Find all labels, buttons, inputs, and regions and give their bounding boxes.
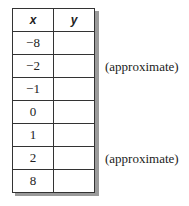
header-y: y [54,9,95,32]
table-row: 1 [13,124,95,147]
table-row: −1 [13,78,95,101]
table-row: −8 [13,32,95,55]
cell-y[interactable] [54,78,95,101]
cell-x: 2 [13,147,54,170]
cell-x: −1 [13,78,54,101]
cell-y[interactable] [54,124,95,147]
table-row: 2 [13,147,95,170]
cell-y[interactable] [54,55,95,78]
table-row: −2 [13,55,95,78]
table-row: 0 [13,101,95,124]
cell-y[interactable] [54,147,95,170]
value-table: x y −8 −2 −1 0 1 2 8 [12,8,95,193]
cell-y[interactable] [54,32,95,55]
cell-y[interactable] [54,170,95,193]
cell-x: 0 [13,101,54,124]
cell-y[interactable] [54,101,95,124]
header-x: x [13,9,54,32]
table-row: 8 [13,170,95,193]
cell-x: 1 [13,124,54,147]
cell-x: 8 [13,170,54,193]
header-row: x y [13,9,95,32]
approximate-note: (approximate) [105,59,179,75]
cell-x: −2 [13,55,54,78]
cell-x: −8 [13,32,54,55]
approximate-note: (approximate) [105,151,179,167]
